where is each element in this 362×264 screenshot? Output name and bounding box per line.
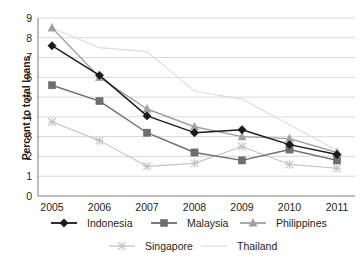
- data-point-marker-square: [191, 149, 198, 156]
- x-tick-label: 2009: [230, 201, 254, 213]
- legend-item-indonesia[interactable]: Indonesia: [51, 217, 133, 229]
- legend-item-thailand[interactable]: Thailand: [201, 240, 277, 252]
- y-tick-label: 8: [26, 32, 32, 44]
- axis-lines-group: [38, 18, 355, 196]
- data-series-group: [48, 23, 342, 172]
- y-tick-label: 0: [26, 190, 32, 202]
- legend-label: Singapore: [145, 240, 193, 252]
- data-point-marker-x: [190, 159, 199, 168]
- x-tick-label: 2010: [278, 201, 302, 213]
- y-tick-labels-group: 0123456789: [26, 12, 32, 202]
- data-point-marker-square: [160, 219, 167, 226]
- x-tick-label: 2005: [40, 201, 64, 213]
- data-point-marker-diamond: [238, 126, 246, 134]
- data-point-marker-x: [143, 162, 152, 171]
- data-point-marker-x: [48, 117, 57, 126]
- data-point-marker-x: [238, 142, 247, 151]
- data-point-marker-square: [48, 82, 55, 89]
- data-point-marker-square: [143, 129, 150, 136]
- y-tick-label: 6: [26, 71, 32, 83]
- data-point-marker-x: [285, 160, 294, 169]
- legend-label: Thailand: [237, 240, 277, 252]
- data-point-marker-diamond: [60, 219, 68, 227]
- y-tick-label: 3: [26, 130, 32, 142]
- y-tick-label: 7: [26, 51, 32, 63]
- data-point-marker-triangle: [143, 105, 151, 113]
- line-chart-svg: 0123456789 2005200620072008200920102011 …: [0, 0, 362, 264]
- legend-label: Indonesia: [87, 217, 133, 229]
- chart-legend: IndonesiaMalaysiaPhilippinesSingaporeTha…: [51, 217, 327, 252]
- legend-item-philippines[interactable]: Philippines: [240, 217, 327, 229]
- x-tick-label: 2006: [88, 201, 112, 213]
- y-tick-label: 1: [26, 170, 32, 182]
- data-point-marker-x: [118, 242, 127, 251]
- data-point-marker-triangle: [48, 23, 56, 31]
- data-point-marker-x: [95, 136, 104, 145]
- x-tick-label: 2007: [135, 201, 159, 213]
- data-point-marker-diamond: [48, 41, 56, 49]
- plot-area-wrapper: 0123456789 2005200620072008200920102011 …: [0, 0, 362, 264]
- x-tick-label: 2008: [183, 201, 207, 213]
- y-tick-label: 2: [26, 150, 32, 162]
- legend-item-singapore[interactable]: Singapore: [109, 240, 193, 252]
- y-tick-label: 5: [26, 91, 32, 103]
- y-tick-label: 9: [26, 12, 32, 24]
- data-point-marker-square: [238, 157, 245, 164]
- legend-label: Malaysia: [187, 217, 229, 229]
- x-tick-label: 2011: [326, 201, 349, 213]
- legend-item-malaysia[interactable]: Malaysia: [151, 217, 229, 229]
- chart-figure: Percent to total loans 0123456789 200520…: [0, 0, 362, 264]
- data-point-marker-x: [333, 164, 342, 173]
- data-point-marker-square: [96, 97, 103, 104]
- x-tick-labels-group: 2005200620072008200920102011: [40, 201, 348, 213]
- legend-label: Philippines: [276, 217, 327, 229]
- y-tick-label: 4: [26, 111, 32, 123]
